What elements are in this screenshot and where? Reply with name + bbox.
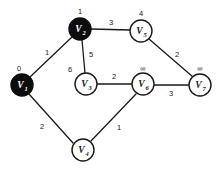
edge-weight-v2-v3: 5 xyxy=(89,50,93,59)
node-distance-v6: ∞ xyxy=(140,64,145,73)
node-distance-v2: 1 xyxy=(78,7,82,16)
edge-weight-v2-v5: 3 xyxy=(109,18,113,27)
node-label-v4: V xyxy=(78,145,85,155)
edge-v2-v3 xyxy=(82,40,85,73)
edge-v2-v5 xyxy=(91,29,130,30)
node-index-v3: 3 xyxy=(88,84,93,91)
node-distance-v1: 0 xyxy=(17,64,21,73)
node-label-v5: V xyxy=(136,26,143,36)
node-label-v6: V xyxy=(138,79,145,89)
node-distance-v5: 4 xyxy=(139,9,143,18)
edge-weight-v3-v6: 2 xyxy=(112,72,116,81)
edge-weight-v1-v2: 1 xyxy=(45,48,49,57)
node-index-v1: 1 xyxy=(25,85,28,92)
node-label-v2: V xyxy=(75,24,82,34)
edge-weight-v1-v4: 2 xyxy=(40,122,44,131)
node-index-v2: 2 xyxy=(82,29,87,36)
edge-v1-v2 xyxy=(30,37,72,77)
edge-v1-v4 xyxy=(29,94,73,143)
node-distance-v7: ∞ xyxy=(197,64,202,73)
node-label-v7: V xyxy=(195,80,202,90)
edges-group xyxy=(29,29,193,143)
node-index-v4: 4 xyxy=(85,150,90,157)
graph-canvas: 12532123V10V21V36V4V54V6∞V7∞ xyxy=(0,0,224,171)
nodes-group xyxy=(11,18,211,161)
edge-weight-v5-v7: 2 xyxy=(175,50,179,59)
node-distance-v3: 6 xyxy=(68,65,72,74)
node-label-v1: V xyxy=(17,80,24,90)
graph-diagram: 12532123V10V21V36V4V54V6∞V7∞ xyxy=(0,0,224,171)
edge-v4-v6 xyxy=(91,94,136,141)
edge-weight-v6-v7: 3 xyxy=(169,89,173,98)
edge-v5-v7 xyxy=(149,39,193,77)
edge-weight-v4-v6: 1 xyxy=(117,123,121,132)
node-label-v3: V xyxy=(81,79,88,89)
